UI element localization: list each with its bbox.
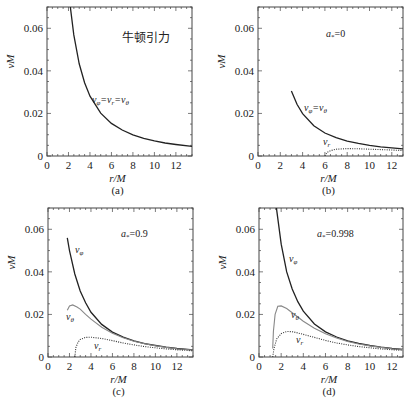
series-line	[69, 0, 193, 146]
chart-panel-a: 02468101200.020.040.06r/MνM(a)牛顿引力νφ​=νr…	[4, 0, 192, 197]
y-tick-label: 0	[39, 351, 45, 363]
y-tick-label: 0.06	[24, 22, 44, 34]
x-tick-label: 6	[109, 159, 115, 171]
x-tick-label: 4	[300, 159, 306, 171]
y-tick-label: 0.02	[25, 308, 44, 320]
x-tick-label: 6	[322, 159, 328, 171]
series-label: νφ​=νr​=νθ​	[92, 94, 129, 107]
y-tick-label: 0.06	[236, 223, 256, 235]
x-axis-label: r/M	[321, 373, 338, 385]
panel-annotation: a*=0.9	[121, 228, 148, 241]
x-tick-label: 8	[345, 360, 351, 372]
x-tick-label: 12	[170, 159, 181, 171]
chart-panel-d: 02468101200.020.040.06r/MνM(d)a*=0.998νφ…	[216, 161, 403, 398]
y-tick-label: 0	[249, 150, 255, 162]
y-axis-label: νM	[216, 255, 228, 270]
y-tick-label: 0.04	[236, 266, 256, 278]
x-tick-label: 2	[67, 360, 73, 372]
panel-caption: (d)	[323, 385, 336, 398]
y-tick-label: 0	[38, 150, 44, 162]
series-label: νr​	[323, 136, 330, 149]
x-tick-label: 10	[364, 360, 376, 372]
panel-annotation: 牛顿引力	[122, 30, 170, 45]
x-axis-label: r/M	[320, 172, 337, 184]
y-tick-label: 0.06	[235, 22, 255, 34]
series-line	[67, 238, 193, 350]
x-tick-label: 2	[278, 159, 284, 171]
y-tick-label: 0.04	[25, 266, 45, 278]
y-tick-label: 0.02	[24, 107, 43, 119]
panel-caption: (a)	[111, 184, 124, 197]
y-tick-label: 0.04	[235, 65, 255, 77]
x-tick-label: 6	[323, 360, 329, 372]
series-label: νφ​	[289, 253, 297, 266]
x-axis-label: r/M	[109, 172, 126, 184]
x-tick-label: 12	[386, 159, 397, 171]
x-tick-label: 4	[301, 360, 307, 372]
x-tick-label: 2	[278, 360, 284, 372]
x-tick-label: 4	[87, 159, 93, 171]
series-line	[273, 332, 403, 358]
x-tick-label: 12	[171, 360, 182, 372]
series-label: νr​	[94, 340, 101, 353]
panel-caption: (c)	[112, 385, 125, 398]
panel-caption: (b)	[322, 184, 335, 197]
x-tick-label: 0	[255, 159, 261, 171]
series-label: νr​	[296, 334, 303, 347]
chart-panel-c: 02468101200.020.040.06r/MνM(c)a*=0.9νφ​ν…	[5, 208, 193, 398]
panel-annotation: a*=0	[326, 28, 345, 41]
y-tick-label: 0.02	[235, 107, 254, 119]
y-axis-label: νM	[5, 255, 17, 270]
x-tick-label: 10	[364, 159, 376, 171]
x-tick-label: 10	[150, 360, 162, 372]
series-label: νφ​	[75, 244, 83, 257]
x-tick-label: 0	[45, 360, 51, 372]
figure-canvas: 02468101200.020.040.06r/MνM(a)牛顿引力νφ​=νr…	[0, 0, 415, 407]
x-tick-label: 6	[110, 360, 116, 372]
series-label: νθ​	[291, 309, 299, 322]
y-axis-label: νM	[215, 54, 227, 69]
series-label: νθ​	[66, 311, 74, 324]
x-tick-label: 4	[88, 360, 94, 372]
series-line	[291, 91, 403, 149]
y-axis-label: νM	[4, 54, 16, 69]
plot-frame	[47, 7, 192, 156]
y-tick-label: 0.04	[24, 65, 44, 77]
series-label: νφ​=νθ​	[304, 102, 328, 115]
x-tick-label: 2	[66, 159, 72, 171]
panel-annotation: a*=0.998	[317, 228, 354, 241]
y-tick-label: 0.02	[236, 308, 255, 320]
x-tick-label: 8	[344, 159, 350, 171]
series-line	[67, 305, 193, 350]
x-tick-label: 10	[149, 159, 161, 171]
x-tick-label: 0	[256, 360, 262, 372]
x-tick-label: 8	[130, 159, 136, 171]
x-axis-label: r/M	[110, 373, 127, 385]
x-tick-label: 8	[131, 360, 137, 372]
y-tick-label: 0	[250, 351, 256, 363]
y-tick-label: 0.06	[25, 223, 45, 235]
x-tick-label: 12	[386, 360, 397, 372]
x-tick-label: 0	[44, 159, 50, 171]
chart-panel-b: 02468101200.020.040.06r/MνM(b)a*=0νφ​=νθ…	[215, 7, 403, 197]
